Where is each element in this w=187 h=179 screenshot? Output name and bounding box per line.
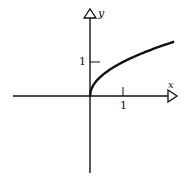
plot-area	[0, 0, 187, 179]
sqrt-curve	[90, 42, 174, 96]
y-axis-label: y	[98, 8, 104, 19]
y-axis-arrow-icon	[84, 9, 96, 18]
x-tick-label: 1	[120, 100, 127, 111]
sqrt-graph: y x 1 1	[0, 0, 187, 179]
x-axis-arrow-icon	[168, 90, 177, 102]
x-axis-label: x	[168, 79, 174, 90]
y-tick-label: 1	[79, 56, 86, 67]
